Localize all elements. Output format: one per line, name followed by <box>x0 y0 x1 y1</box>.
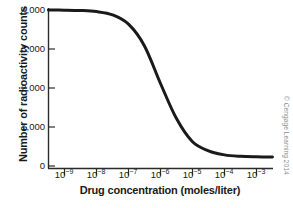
x-tick-label: 10−4 <box>215 169 234 180</box>
x-tick-label: 10−9 <box>55 169 74 180</box>
x-axis-tick-labels: 10−9 10−8 10−7 10−6 10−5 10−4 10−3 <box>0 169 293 185</box>
x-axis-title: Drug concentration (moles/liter) <box>48 184 272 196</box>
x-tick-label: 10−3 <box>247 169 266 180</box>
y-tick-marks <box>49 10 56 166</box>
x-tick-label: 10−7 <box>119 169 138 180</box>
x-tick-label: 10−5 <box>183 169 202 180</box>
copyright-notice: © Cengage Learning 2014 <box>283 96 290 188</box>
x-tick-label: 10−8 <box>87 169 106 180</box>
radioligand-binding-chart: Number of radioactivity counts 4,000 3,0… <box>0 0 293 208</box>
x-tick-label: 10−6 <box>151 169 170 180</box>
data-curve-bound-radioactivity <box>48 10 272 157</box>
